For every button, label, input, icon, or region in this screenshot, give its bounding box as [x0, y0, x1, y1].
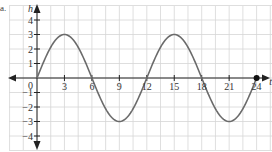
y-tick-label: 4	[28, 15, 33, 26]
x-tick-label: 9	[117, 81, 122, 92]
x-tick-label: 21	[224, 81, 234, 92]
x-axis-label: t	[269, 76, 272, 87]
x-tick-label: 3	[62, 81, 67, 92]
origin-label: 0	[28, 80, 33, 91]
y-tick-label: 1	[28, 58, 33, 69]
y-tick-label: 3	[28, 29, 33, 40]
x-tick-label: 18	[197, 81, 207, 92]
y-tick-label: −4	[22, 131, 33, 142]
axes	[8, 4, 270, 150]
x-tick-label: 12	[142, 81, 152, 92]
sine-chart: 3691215182124−4−3−2−112340ht	[0, 0, 272, 152]
x-tick-label: 15	[169, 81, 179, 92]
x-tick-label: 6	[89, 81, 94, 92]
down-arrow-icon	[34, 141, 41, 150]
y-tick-label: −2	[22, 102, 33, 113]
x-tick-label: 24	[252, 81, 262, 92]
y-tick-label: −3	[22, 116, 33, 127]
y-axis-label: h	[28, 3, 33, 14]
y-tick-label: 2	[28, 44, 33, 55]
problem-label: a.	[0, 4, 6, 13]
